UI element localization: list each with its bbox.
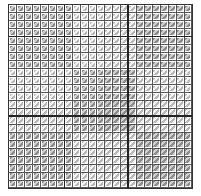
diagonal-hatch-pattern (185, 94, 190, 99)
diagonal-hatch-pattern (66, 117, 71, 122)
diagonal-hatch-pattern (50, 38, 55, 43)
diagonal-hatch-pattern (42, 173, 47, 178)
diagonal-hatch-pattern (98, 149, 103, 154)
diagonal-hatch-pattern (50, 173, 55, 178)
diagonal-hatch-pattern (121, 54, 126, 59)
diagonal-hatch-pattern (58, 46, 63, 51)
diagonal-hatch-pattern (153, 54, 158, 59)
diagonal-hatch-pattern (26, 149, 31, 154)
diagonal-hatch-pattern (177, 22, 182, 27)
diagonal-hatch-pattern (66, 54, 71, 59)
diagonal-hatch-pattern (26, 94, 31, 99)
diagonal-hatch-pattern (169, 78, 174, 83)
diagonal-hatch-pattern (105, 14, 110, 19)
diagonal-hatch-pattern (34, 173, 39, 178)
diagonal-hatch-pattern (90, 149, 95, 154)
diagonal-hatch-pattern (177, 181, 182, 186)
thick-grid-line-horizontal (9, 115, 192, 117)
diagonal-hatch-pattern (145, 109, 150, 114)
diagonal-hatch-pattern (82, 70, 87, 75)
diagonal-hatch-pattern (129, 14, 134, 19)
diagonal-hatch-pattern (74, 22, 79, 27)
diagonal-hatch-pattern (42, 133, 47, 138)
diagonal-hatch-pattern (74, 78, 79, 83)
diagonal-hatch-pattern (121, 78, 126, 83)
diagonal-hatch-pattern (98, 125, 103, 130)
diagonal-hatch-pattern (26, 165, 31, 170)
diagonal-hatch-pattern (50, 54, 55, 59)
diagonal-hatch-pattern (10, 46, 15, 51)
diagonal-hatch-pattern (98, 157, 103, 162)
diagonal-hatch-pattern (137, 94, 142, 99)
diagonal-hatch-pattern (10, 101, 15, 106)
diagonal-hatch-pattern (82, 157, 87, 162)
diagonal-hatch-pattern (98, 86, 103, 91)
diagonal-hatch-pattern (34, 62, 39, 67)
diagonal-hatch-pattern (105, 54, 110, 59)
diagonal-hatch-pattern (10, 70, 15, 75)
diagonal-hatch-pattern (58, 22, 63, 27)
diagonal-hatch-pattern (177, 157, 182, 162)
diagonal-hatch-pattern (169, 157, 174, 162)
diagonal-hatch-pattern (113, 38, 118, 43)
diagonal-hatch-pattern (58, 157, 63, 162)
diagonal-hatch-pattern (50, 6, 55, 11)
diagonal-hatch-pattern (98, 22, 103, 27)
diagonal-hatch-pattern (18, 125, 23, 130)
diagonal-hatch-pattern (42, 6, 47, 11)
diagonal-hatch-pattern (66, 94, 71, 99)
diagonal-hatch-pattern (26, 181, 31, 186)
diagonal-hatch-pattern (58, 70, 63, 75)
diagonal-hatch-pattern (66, 149, 71, 154)
diagonal-hatch-pattern (90, 157, 95, 162)
diagonal-hatch-pattern (10, 109, 15, 114)
diagonal-hatch-pattern (18, 149, 23, 154)
diagonal-hatch-pattern (121, 133, 126, 138)
diagonal-hatch-pattern (121, 46, 126, 51)
diagonal-hatch-pattern (42, 86, 47, 91)
diagonal-hatch-pattern (169, 117, 174, 122)
diagonal-hatch-pattern (161, 149, 166, 154)
diagonal-hatch-pattern (18, 109, 23, 114)
diagonal-hatch-pattern (113, 62, 118, 67)
diagonal-hatch-pattern (42, 141, 47, 146)
diagonal-hatch-pattern (50, 86, 55, 91)
diagonal-hatch-pattern (169, 165, 174, 170)
diagonal-hatch-pattern (50, 14, 55, 19)
diagonal-hatch-pattern (161, 46, 166, 51)
diagonal-hatch-pattern (105, 94, 110, 99)
diagonal-hatch-pattern (153, 14, 158, 19)
diagonal-hatch-pattern (26, 173, 31, 178)
diagonal-hatch-pattern (121, 109, 126, 114)
diagonal-hatch-pattern (74, 14, 79, 19)
diagonal-hatch-pattern (50, 70, 55, 75)
diagonal-hatch-pattern (58, 62, 63, 67)
diagonal-hatch-pattern (153, 181, 158, 186)
diagonal-hatch-pattern (105, 181, 110, 186)
diagonal-hatch-pattern (145, 46, 150, 51)
diagonal-hatch-pattern (18, 133, 23, 138)
diagonal-hatch-pattern (161, 101, 166, 106)
diagonal-hatch-pattern (113, 86, 118, 91)
diagonal-hatch-pattern (153, 141, 158, 146)
diagonal-hatch-pattern (153, 165, 158, 170)
diagonal-hatch-pattern (145, 62, 150, 67)
diagonal-hatch-pattern (177, 38, 182, 43)
diagonal-hatch-pattern (169, 101, 174, 106)
thick-grid-line-horizontal (9, 36, 192, 38)
diagonal-hatch-pattern (169, 6, 174, 11)
diagonal-hatch-pattern (169, 14, 174, 19)
diagonal-hatch-pattern (90, 94, 95, 99)
diagonal-hatch-pattern (10, 173, 15, 178)
diagonal-hatch-pattern (10, 6, 15, 11)
diagonal-hatch-pattern (185, 117, 190, 122)
diagonal-hatch-pattern (161, 133, 166, 138)
diagonal-hatch-pattern (50, 149, 55, 154)
diagonal-hatch-pattern (105, 86, 110, 91)
diagonal-hatch-pattern (113, 14, 118, 19)
diagonal-hatch-pattern (169, 86, 174, 91)
diagonal-hatch-pattern (145, 141, 150, 146)
diagonal-hatch-pattern (90, 14, 95, 19)
diagonal-hatch-pattern (26, 78, 31, 83)
diagonal-hatch-pattern (145, 133, 150, 138)
